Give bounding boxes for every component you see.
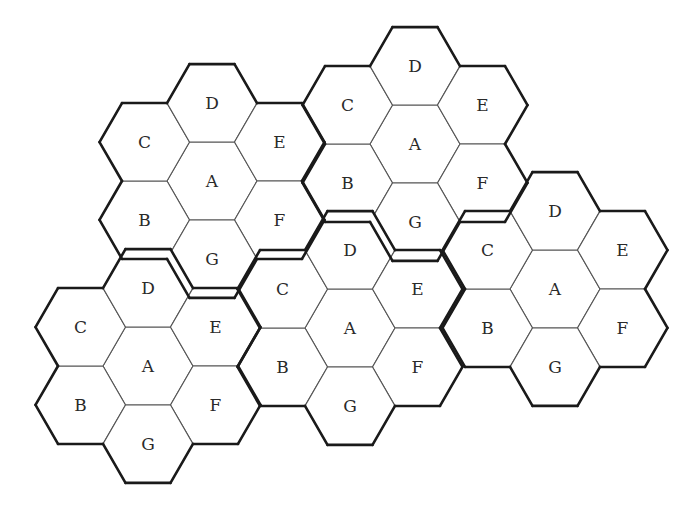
cell-label: E xyxy=(616,240,628,260)
cell-label: D xyxy=(343,240,357,260)
cell-label: G xyxy=(408,212,422,232)
cell-label: E xyxy=(476,95,488,115)
cell-label: G xyxy=(548,357,562,377)
cell-label: B xyxy=(74,395,87,415)
cell-label: F xyxy=(617,318,629,338)
cell-label: D xyxy=(408,56,422,76)
cell-label: C xyxy=(74,317,87,337)
cell-label: F xyxy=(274,210,286,230)
cell-label: B xyxy=(138,210,151,230)
cell-label: E xyxy=(411,279,423,299)
cell-label: B xyxy=(341,173,354,193)
cell-label: A xyxy=(205,171,219,191)
cell-label: B xyxy=(481,318,494,338)
cell-label: A xyxy=(548,279,562,299)
cell-label: E xyxy=(273,132,285,152)
cell-label: F xyxy=(477,173,489,193)
cell-label: A xyxy=(343,318,357,338)
hex-cluster-diagram: ABCDEFGABCDEFGABCDEFGABCDEFGABCDEFG xyxy=(0,0,700,505)
cell-label: A xyxy=(408,134,422,154)
cell-label: F xyxy=(210,395,222,415)
cell-label: G xyxy=(141,434,155,454)
cell-label: C xyxy=(341,95,354,115)
cell-label: C xyxy=(138,132,151,152)
cell-label: B xyxy=(276,357,289,377)
cell-label: C xyxy=(276,279,289,299)
cell-label: D xyxy=(205,93,219,113)
cell-label: C xyxy=(481,240,494,260)
cell-label: E xyxy=(209,317,221,337)
cell-label: D xyxy=(141,278,155,298)
cell-label: G xyxy=(205,249,219,269)
cell-label: F xyxy=(412,357,424,377)
cell-label: G xyxy=(343,396,357,416)
cell-label: D xyxy=(548,201,562,221)
cell-label: A xyxy=(141,356,155,376)
